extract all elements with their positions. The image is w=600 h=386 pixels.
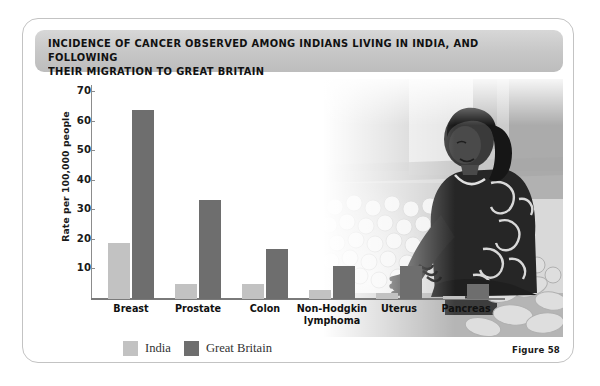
bar-great-britain	[132, 110, 154, 299]
bar-india	[175, 284, 197, 299]
bar-great-britain	[467, 284, 489, 299]
bar-india	[242, 284, 264, 299]
bar-great-britain	[266, 249, 288, 299]
bar-india	[309, 290, 331, 299]
y-axis-tick-label: 10	[65, 262, 91, 273]
y-axis-tick-label: 50	[65, 144, 91, 155]
y-axis-tick-label: 20	[65, 233, 91, 244]
bar-great-britain	[400, 266, 422, 299]
x-axis-category-label: Pancreas	[411, 303, 521, 315]
legend-swatch	[184, 341, 199, 356]
figure-title-banner: INCIDENCE OF CANCER OBSERVED AMONG INDIA…	[35, 30, 563, 72]
legend-item: Great Britain	[184, 341, 272, 356]
legend-swatch	[123, 341, 138, 356]
page-title: INCIDENCE OF CANCER OBSERVED AMONG INDIA…	[48, 36, 542, 79]
figure-card: INCIDENCE OF CANCER OBSERVED AMONG INDIA…	[22, 18, 574, 363]
bar-india	[108, 243, 130, 299]
legend-item: India	[123, 341, 171, 356]
legend-label: Great Britain	[206, 341, 272, 356]
y-axis-ticks: 10203040506070	[55, 79, 91, 309]
chart-legend: IndiaGreat Britain	[123, 341, 272, 356]
bar-groups: BreastProstateColonNon-Hodgkin lymphomaU…	[92, 79, 506, 299]
bar-india	[376, 293, 398, 299]
bar-chart: Rate per 100,000 people 10203040506070 B…	[35, 79, 563, 309]
bar-great-britain	[199, 200, 221, 299]
y-axis-tick-label: 60	[65, 115, 91, 126]
figure-caption: Figure 58	[512, 345, 560, 355]
y-axis-tick-label: 40	[65, 174, 91, 185]
bar-great-britain	[333, 266, 355, 299]
y-axis-tick-label: 70	[65, 85, 91, 96]
bar-india	[443, 296, 465, 299]
legend-label: India	[145, 341, 171, 356]
y-axis-tick-label: 30	[65, 203, 91, 214]
